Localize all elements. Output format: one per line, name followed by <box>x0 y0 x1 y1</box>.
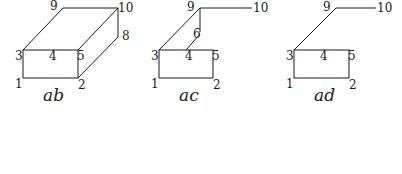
label-5: 5 <box>348 49 356 63</box>
label-9: 9 <box>50 0 58 13</box>
label-1: 1 <box>151 77 159 91</box>
label-2: 2 <box>78 78 86 92</box>
label-4: 4 <box>320 49 328 63</box>
label-4: 4 <box>185 49 193 63</box>
label-9: 9 <box>187 0 195 14</box>
diagram-canvas: 9 10 8 3 4 5 1 2 ab 9 10 6 3 4 5 1 2 ac … <box>0 0 402 174</box>
caption-ad: ad <box>314 85 335 105</box>
label-5: 5 <box>212 49 220 63</box>
label-6: 6 <box>193 27 201 41</box>
figure-ab: 9 10 8 3 4 5 1 2 ab <box>15 0 133 105</box>
label-1: 1 <box>286 77 294 91</box>
label-3: 3 <box>15 49 23 63</box>
figure-ac: 9 10 6 3 4 5 1 2 ac <box>151 0 268 105</box>
label-4: 4 <box>49 49 57 63</box>
edge-3-9 <box>23 8 63 50</box>
caption-ab: ab <box>43 85 64 105</box>
label-1: 1 <box>15 77 23 91</box>
label-3: 3 <box>151 49 159 63</box>
label-3: 3 <box>286 49 294 63</box>
label-2: 2 <box>349 78 357 92</box>
label-8: 8 <box>122 29 130 43</box>
label-10: 10 <box>377 1 392 15</box>
label-9: 9 <box>323 0 331 14</box>
figure-ad: 9 10 3 4 5 1 2 ad <box>286 0 392 105</box>
edge-3-9 <box>294 8 336 50</box>
label-10: 10 <box>118 1 133 15</box>
label-2: 2 <box>213 78 221 92</box>
label-5: 5 <box>77 49 85 63</box>
label-10: 10 <box>253 1 268 15</box>
caption-ac: ac <box>179 85 199 105</box>
